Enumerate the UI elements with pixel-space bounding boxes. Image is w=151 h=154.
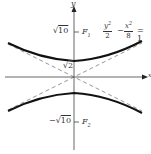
focus-top-name-label: F1 (82, 28, 91, 38)
hyperbola-lower-branch (8, 93, 142, 113)
asymptote-negative (8, 44, 142, 111)
minus-sign: − (49, 116, 56, 125)
term1-numerator: y2 (103, 21, 112, 32)
radicand: 10 (61, 116, 71, 125)
vertex-value-label: √2 (63, 62, 73, 70)
radicand: 2 (68, 61, 73, 70)
equation-minus: − (117, 27, 124, 35)
hyperbola-upper-branch (8, 41, 142, 61)
equation-term2: x2 8 (124, 21, 133, 40)
term2-numerator: x2 (124, 21, 133, 32)
focus-top-value-label: √10 (53, 27, 68, 35)
asymptote-positive (8, 43, 142, 110)
focus-bottom-value-label: −√10 (49, 117, 71, 125)
term2-denominator: 8 (126, 32, 130, 40)
term1-denominator: 2 (105, 32, 109, 40)
radicand: 10 (58, 26, 68, 35)
focus-sub: 2 (88, 122, 91, 128)
y-axis-label: y (71, 0, 76, 8)
equation-term1: y2 2 (103, 21, 112, 40)
focus-sub: 1 (88, 32, 91, 38)
equation-equals: = 1 (137, 27, 151, 43)
focus-bottom-name-label: F2 (82, 118, 91, 128)
x-axis-label: x (148, 72, 151, 78)
